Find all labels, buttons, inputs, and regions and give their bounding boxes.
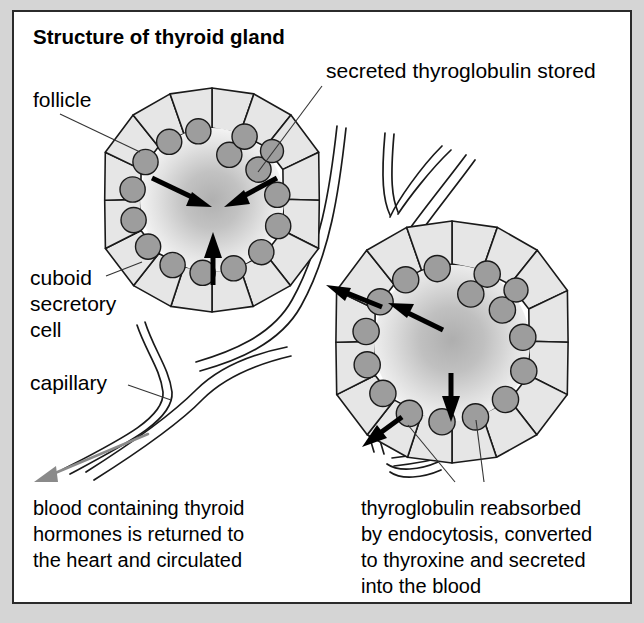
- cell-nucleus: [511, 358, 537, 384]
- blood-flow-arrow: [34, 434, 148, 482]
- cell-nucleus: [504, 278, 528, 302]
- capillary-vessel-wall: [70, 322, 172, 474]
- leader-capillary: [128, 385, 171, 400]
- cell-nucleus: [396, 400, 422, 426]
- cell-nucleus: [186, 119, 211, 144]
- caption-right-line4: into the blood: [361, 575, 481, 597]
- blood-flow-arrowhead: [34, 466, 58, 482]
- cell-nucleus: [232, 124, 257, 149]
- cell-nucleus: [265, 182, 290, 207]
- label-cuboid-line1: cuboid: [30, 266, 92, 289]
- caption-left-line2: hormones is returned to: [33, 523, 244, 545]
- caption-right: thyroglobulin reabsorbed by endocytosis,…: [361, 497, 592, 597]
- cell-nucleus: [120, 177, 145, 202]
- capillary-branch-wall: [390, 146, 442, 217]
- page-title: Structure of thyroid gland: [33, 25, 285, 48]
- cell-nucleus: [474, 261, 500, 287]
- cell-nucleus: [136, 234, 161, 259]
- cell-nucleus: [424, 256, 450, 282]
- lower-right-follicle: [326, 221, 568, 463]
- label-capillary: capillary: [30, 371, 108, 394]
- cell-nucleus: [121, 208, 146, 233]
- caption-left-line1: blood containing thyroid: [33, 497, 244, 519]
- cell-nucleus: [393, 267, 419, 293]
- cell-nucleus: [160, 252, 185, 277]
- cell-nucleus: [370, 380, 396, 406]
- cell-nucleus: [510, 324, 536, 350]
- caption-right-line2: by endocytosis, converted: [361, 523, 592, 545]
- capillary-branch-wall: [392, 134, 398, 212]
- cell-nucleus: [249, 240, 274, 265]
- cell-nucleus: [462, 404, 488, 430]
- label-follicle: follicle: [33, 88, 91, 111]
- cell-nucleus: [492, 386, 518, 412]
- cell-nucleus: [353, 318, 379, 344]
- label-cuboid-line2: secretory: [30, 292, 117, 315]
- caption-left: blood containing thyroid hormones is ret…: [33, 497, 244, 571]
- capillary-branch-wall: [383, 133, 390, 215]
- cell-nucleus: [133, 149, 158, 174]
- caption-left-line3: the heart and circulated: [33, 549, 242, 571]
- label-cuboid-line3: cell: [30, 318, 62, 341]
- cell-nucleus: [266, 213, 291, 238]
- cell-nucleus: [221, 256, 246, 281]
- thyroid-diagram-svg: Structure of thyroid gland: [0, 0, 644, 623]
- cell-nucleus: [157, 129, 182, 154]
- caption-right-line1: thyroglobulin reabsorbed: [361, 497, 581, 519]
- capillary-vessel-wall: [94, 356, 291, 480]
- caption-right-line3: to thyroxine and secreted: [361, 549, 586, 571]
- upper-left-follicle: [105, 88, 320, 312]
- cell-nucleus: [354, 352, 380, 378]
- capillary-vessel-wall: [390, 470, 441, 477]
- capillary-branch-wall: [398, 150, 451, 214]
- label-secreted-thyroglobulin: secreted thyroglobulin stored: [326, 59, 596, 82]
- figure-root: Structure of thyroid gland: [0, 0, 644, 623]
